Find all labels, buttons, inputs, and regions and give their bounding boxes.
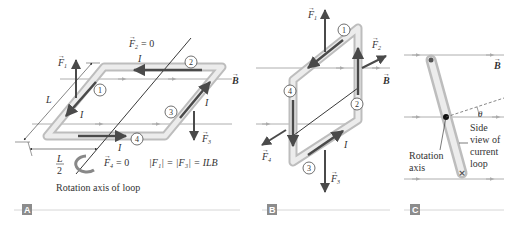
svg-text:view of: view of (470, 134, 501, 145)
normal-dashed-line (446, 98, 504, 117)
svg-text:2: 2 (355, 100, 359, 109)
label-current: I (343, 139, 348, 150)
svg-text:I: I (79, 109, 84, 120)
force-arrow-f4 (262, 130, 286, 145)
svg-text:current: current (470, 146, 499, 157)
current-in-icon: × (458, 168, 466, 178)
current-out-icon (429, 58, 434, 63)
figure-canvas: × F2= 0 → F1 → I B → L I I F3 → I L 2 F4… (0, 0, 513, 232)
svg-text:→: → (331, 168, 338, 176)
svg-text:→: → (383, 70, 390, 78)
svg-text:→: → (232, 70, 239, 78)
label-current: I (137, 53, 142, 64)
svg-text:loop: loop (470, 158, 488, 169)
svg-text:→: → (262, 146, 269, 154)
svg-text:→: → (129, 33, 136, 41)
svg-text:4: 4 (135, 135, 139, 144)
label-half-l-num: L (56, 153, 63, 164)
label-theta: θ (478, 109, 483, 119)
svg-text:Rotation: Rotation (409, 150, 443, 161)
svg-text:3: 3 (307, 164, 311, 173)
svg-text:→: → (58, 52, 65, 60)
label-half-l-den: 2 (57, 165, 62, 176)
svg-text:axis: axis (409, 162, 425, 173)
label-magnitude-equation: |F₁| = |F₃| = ILB (149, 157, 218, 168)
svg-text:1: 1 (98, 86, 102, 95)
svg-text:→: → (104, 152, 111, 160)
svg-text:→: → (494, 55, 501, 63)
panel-tag-b-label: B (269, 205, 276, 215)
caption-rotation-axis: Rotation axis of loop (56, 182, 140, 193)
label-side-view: Side view of current loop (470, 122, 501, 169)
label-rotation-axis: Rotation axis (409, 150, 443, 173)
svg-text:4: 4 (288, 87, 292, 96)
force-arrow-f2 (362, 56, 386, 68)
svg-text:3: 3 (169, 108, 173, 117)
panel-tag-a-label: A (24, 205, 31, 215)
svg-text:→: → (202, 128, 209, 136)
svg-text:I: I (204, 97, 209, 108)
rotation-axis-line (76, 38, 191, 174)
panel-b (256, 10, 390, 215)
svg-text:→: → (308, 4, 315, 12)
svg-text:1: 1 (342, 26, 346, 35)
svg-text:→: → (372, 34, 379, 42)
svg-text:I: I (117, 142, 122, 153)
svg-text:Side: Side (470, 122, 488, 133)
label-length: L (45, 94, 52, 105)
svg-text:2: 2 (189, 58, 193, 67)
current-loop-highlight (47, 67, 222, 136)
panel-tag-c-label: C (412, 205, 419, 215)
